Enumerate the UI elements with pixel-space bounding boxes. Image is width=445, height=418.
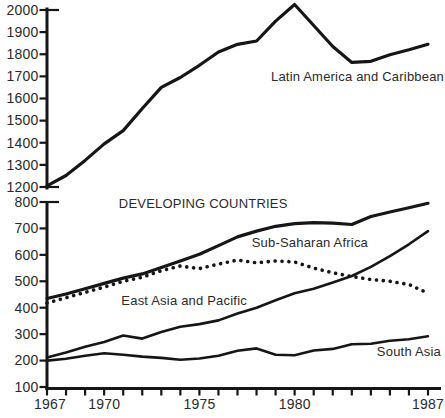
chart-svg: 200019001800170016001500140013001200Lati… bbox=[0, 0, 445, 418]
series-line-latin-america-and-caribbean bbox=[47, 5, 428, 186]
y-tick-label-1600: 1600 bbox=[7, 90, 39, 106]
x-tick-label-1975: 1975 bbox=[183, 396, 215, 412]
y-tick-label-700: 700 bbox=[15, 220, 39, 236]
series-label-sub-saharan-africa: Sub-Saharan Africa bbox=[252, 235, 369, 250]
y-tick-label-300: 300 bbox=[15, 326, 39, 342]
y-tick-label-1500: 1500 bbox=[7, 112, 39, 128]
series-label-east-asia-and-pacific: East Asia and Pacific bbox=[121, 293, 247, 308]
series-label-latin-america-and-caribbean: Latin America and Caribbean bbox=[271, 69, 444, 84]
series-label-developing-countries: DEVELOPING COUNTRIES bbox=[119, 196, 288, 211]
y-tick-label-1900: 1900 bbox=[7, 24, 39, 40]
y-tick-label-400: 400 bbox=[15, 300, 39, 316]
y-tick-label-1700: 1700 bbox=[7, 68, 39, 84]
y-tick-label-1400: 1400 bbox=[7, 135, 39, 151]
series-label-south-asia: South Asia bbox=[377, 344, 442, 359]
y-tick-label-1200: 1200 bbox=[7, 179, 39, 195]
series-line-developing-countries bbox=[47, 203, 428, 298]
x-tick-label-1970: 1970 bbox=[88, 396, 120, 412]
series-line-south-asia bbox=[47, 336, 428, 360]
x-tick-label-1987: 1987 bbox=[412, 396, 444, 412]
y-tick-label-100: 100 bbox=[15, 379, 39, 395]
gnp-per-capita-two-panel-chart: 200019001800170016001500140013001200Lati… bbox=[0, 0, 445, 418]
y-tick-label-2000: 2000 bbox=[7, 2, 39, 18]
y-tick-label-600: 600 bbox=[15, 247, 39, 263]
y-tick-label-1800: 1800 bbox=[7, 46, 39, 62]
x-tick-label-1980: 1980 bbox=[279, 396, 311, 412]
y-tick-label-1300: 1300 bbox=[7, 157, 39, 173]
y-tick-label-800: 800 bbox=[15, 194, 39, 210]
x-tick-label-1967: 1967 bbox=[34, 396, 66, 412]
y-tick-label-500: 500 bbox=[15, 273, 39, 289]
y-tick-label-200: 200 bbox=[15, 352, 39, 368]
